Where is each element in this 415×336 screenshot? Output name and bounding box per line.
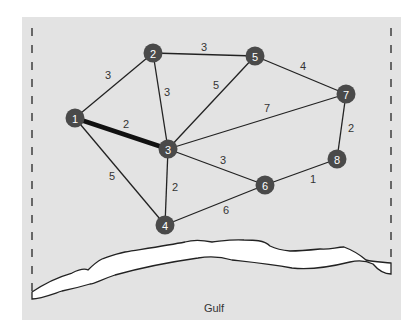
edge-4-6 bbox=[165, 185, 265, 225]
edges-layer bbox=[75, 53, 346, 225]
node-3: 3 bbox=[159, 140, 178, 159]
edge-3-7 bbox=[168, 94, 346, 149]
node-label: 4 bbox=[162, 220, 168, 232]
node-label: 1 bbox=[72, 113, 78, 125]
edge-weight-label: 4 bbox=[300, 60, 306, 72]
edge-2-3 bbox=[153, 53, 168, 149]
node-label: 7 bbox=[343, 89, 349, 101]
edge-weight-label: 3 bbox=[201, 41, 207, 53]
edge-weight-label: 2 bbox=[348, 122, 354, 134]
network-diagram: Gulf 3253357326412 12345678 bbox=[0, 0, 415, 336]
edge-3-4 bbox=[165, 149, 168, 225]
edge-weight-label: 2 bbox=[123, 118, 129, 130]
edge-weight-label: 5 bbox=[109, 170, 115, 182]
node-label: 5 bbox=[252, 51, 258, 63]
edge-weight-label: 6 bbox=[223, 204, 229, 216]
coastline-shape bbox=[32, 240, 391, 299]
edge-weight-label: 3 bbox=[164, 86, 170, 98]
node-2: 2 bbox=[144, 44, 163, 63]
edge-1-3 bbox=[75, 118, 168, 149]
node-5: 5 bbox=[246, 47, 265, 66]
node-8: 8 bbox=[328, 150, 347, 169]
gulf-label: Gulf bbox=[204, 302, 225, 314]
node-1: 1 bbox=[66, 109, 85, 128]
edge-1-2 bbox=[75, 53, 153, 118]
node-label: 2 bbox=[150, 48, 156, 60]
edge-7-8 bbox=[337, 94, 346, 159]
node-label: 3 bbox=[165, 144, 171, 156]
edge-weight-label: 7 bbox=[264, 102, 270, 114]
edge-weight-label: 3 bbox=[220, 154, 226, 166]
edge-weight-label: 3 bbox=[105, 69, 111, 81]
edge-weight-label: 1 bbox=[310, 173, 316, 185]
edge-2-5 bbox=[153, 53, 255, 56]
node-6: 6 bbox=[256, 176, 275, 195]
edge-weight-label: 2 bbox=[172, 181, 178, 193]
node-7: 7 bbox=[337, 85, 356, 104]
edge-3-6 bbox=[168, 149, 265, 185]
node-4: 4 bbox=[156, 216, 175, 235]
edge-weights-layer: 3253357326412 bbox=[105, 41, 354, 216]
node-label: 8 bbox=[334, 154, 340, 166]
edge-weight-label: 5 bbox=[213, 79, 219, 91]
edge-6-8 bbox=[265, 159, 337, 185]
node-label: 6 bbox=[262, 180, 268, 192]
